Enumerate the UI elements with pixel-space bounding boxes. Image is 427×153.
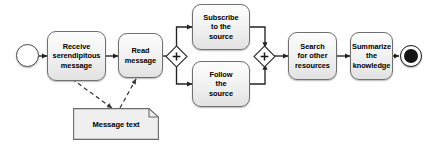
activity-label-line: source [209, 89, 233, 98]
activity-read-message[interactable]: Read message [118, 33, 163, 78]
fork-gateway[interactable] [165, 45, 188, 68]
activity-label-line: Follow [209, 70, 232, 79]
note-label: Message text [73, 120, 159, 129]
activity-label-line: Summarize [352, 42, 391, 51]
activity-label-line: Subscribe [203, 13, 238, 22]
activity-label-line: message [61, 61, 92, 70]
activity-summarize-the-knowledge[interactable]: Summarize the knowledge [350, 32, 393, 80]
activity-label-line: resources [295, 61, 330, 70]
data-object-message-text[interactable]: Message text [73, 108, 159, 140]
activity-label-line: for other [298, 51, 328, 60]
join-gateway[interactable] [253, 45, 276, 68]
activity-follow-the-source[interactable]: Follow the source [192, 61, 250, 107]
activity-label-line: Read [132, 46, 150, 55]
activity-search-for-other-resources[interactable]: Search for other resources [288, 32, 337, 80]
activity-label-line: knowledge [353, 61, 391, 70]
activity-label-line: Receive [63, 42, 91, 51]
edge-note-to-read [120, 79, 136, 108]
activity-label-line: source [209, 32, 233, 41]
activity-label-line: to the [211, 22, 231, 31]
end-node[interactable] [400, 45, 422, 67]
activity-diagram-canvas: Receive serendipitous message Read messa… [0, 0, 427, 153]
activity-label-line: the [366, 51, 377, 60]
start-node[interactable] [16, 44, 39, 67]
activity-label-line: message [125, 56, 156, 65]
activity-receive-serendipitous-message[interactable]: Receive serendipitous message [47, 31, 106, 81]
activity-label-line: serendipitous [53, 51, 101, 60]
activity-label-line: Search [300, 42, 324, 51]
edge-receive-to-note [72, 79, 112, 108]
activity-subscribe-to-the-source[interactable]: Subscribe to the source [192, 4, 250, 50]
activity-label-line: the [216, 79, 227, 88]
